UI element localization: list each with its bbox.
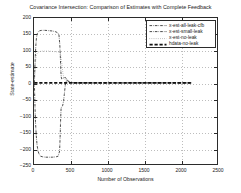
legend: x-est-all-leak-cfbx-est-small-leakx-est-… (146, 20, 216, 48)
legend-line-sample (149, 36, 167, 41)
tick-mark-y (214, 84, 217, 85)
legend-item-label: x-est-all-leak-cfb (169, 23, 204, 29)
tick-mark-x (182, 161, 183, 164)
chart-figure: Covariance Intersection: Comparison of E… (0, 0, 241, 193)
y-tick-label: −50 (23, 96, 31, 102)
y-tick-label: −100 (20, 113, 31, 119)
legend-line-sample (149, 42, 167, 47)
tick-mark-x (108, 161, 109, 164)
tick-mark-x (108, 18, 109, 21)
x-tick-label: 1000 (101, 167, 112, 173)
series-line (34, 80, 191, 157)
x-tick-label: 0 (32, 167, 35, 173)
y-tick-label: 50 (25, 63, 31, 69)
tick-mark-x (71, 161, 72, 164)
tick-mark-y (34, 100, 37, 101)
tick-mark-y (214, 133, 217, 134)
tick-mark-y (214, 67, 217, 68)
legend-item-label: x-est-small-leak (169, 29, 203, 35)
y-tick-label: 100 (23, 47, 31, 53)
series-line (34, 51, 191, 83)
y-tick-label: 0 (28, 80, 31, 86)
legend-item[interactable]: x-est-all-leak-cfb (149, 23, 213, 29)
x-axis-label: Number of Observations (33, 176, 218, 182)
tick-mark-y (214, 117, 217, 118)
tick-mark-y (34, 150, 37, 151)
tick-mark-y (34, 84, 37, 85)
tick-mark-y (34, 117, 37, 118)
x-tick-label: 1500 (138, 167, 149, 173)
y-tick-label: −200 (20, 146, 31, 152)
legend-item-label: hdata-no-leak (169, 41, 198, 47)
tick-mark-y (34, 133, 37, 134)
y-tick-label: −150 (20, 129, 31, 135)
legend-item[interactable]: x-est-no-leak (149, 35, 213, 41)
y-axis-label: State-estimate (9, 49, 15, 109)
legend-line-sample (149, 23, 167, 28)
chart-title: Covariance Intersection: Comparison of E… (0, 4, 241, 10)
legend-item[interactable]: x-est-small-leak (149, 29, 213, 35)
y-tick-label: 150 (23, 30, 31, 36)
legend-item[interactable]: hdata-no-leak (149, 41, 213, 47)
y-tick-label: −250 (20, 162, 31, 168)
tick-mark-y (214, 150, 217, 151)
x-tick-label: 2500 (212, 167, 223, 173)
tick-mark-x (71, 18, 72, 21)
legend-item-label: x-est-no-leak (169, 35, 197, 41)
tick-mark-x (145, 161, 146, 164)
tick-mark-y (214, 51, 217, 52)
x-axis-tick-labels: 05001000150020002500 (33, 167, 218, 176)
legend-line-sample (149, 29, 167, 34)
y-tick-label: 200 (23, 14, 31, 20)
tick-mark-y (34, 67, 37, 68)
x-tick-label: 2000 (175, 167, 186, 173)
x-tick-label: 500 (66, 167, 74, 173)
tick-mark-y (34, 51, 37, 52)
tick-mark-y (34, 34, 37, 35)
tick-mark-y (214, 100, 217, 101)
